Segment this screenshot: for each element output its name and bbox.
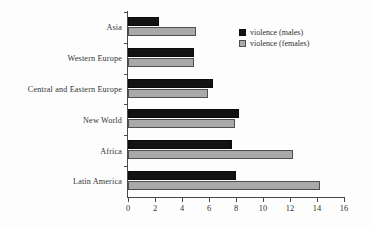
bar-new-world-females — [128, 119, 235, 128]
bar-africa-males — [128, 140, 232, 149]
legend-item-males: violence (males) — [239, 27, 309, 37]
bar-group-asia: Asia — [128, 12, 344, 43]
x-axis-label-16: 16 — [340, 204, 348, 213]
bar-group-latin-america: Latin America — [128, 166, 344, 197]
category-label-asia: Asia — [106, 23, 122, 32]
bar-group-africa: Africa — [128, 135, 344, 166]
y-axis-tick — [124, 43, 128, 44]
x-axis-tick — [182, 197, 183, 202]
bar-asia-females — [128, 27, 196, 36]
category-label-central-and-eastern-europe: Central and Eastern Europe — [28, 84, 122, 93]
x-axis-tick — [263, 197, 264, 202]
bar-western-europe-females — [128, 58, 194, 67]
bar-latin-america-females — [128, 181, 320, 190]
bar-chart: Asia Western Europe Central and Eastern … — [0, 0, 373, 227]
legend-item-females: violence (females) — [239, 38, 309, 48]
legend-label-females: violence (females) — [250, 39, 309, 48]
x-axis-tick — [344, 197, 345, 202]
plot-area: Asia Western Europe Central and Eastern … — [128, 12, 344, 197]
category-label-africa: Africa — [100, 146, 122, 155]
bar-central-and-eastern-europe-females — [128, 89, 208, 98]
x-axis-label-0: 0 — [126, 204, 130, 213]
x-axis-tick — [317, 197, 318, 202]
y-axis-tick — [124, 74, 128, 75]
category-label-western-europe: Western Europe — [68, 54, 122, 63]
y-axis-tick — [124, 135, 128, 136]
x-axis-tick — [209, 197, 210, 202]
bar-group-central-and-eastern-europe: Central and Eastern Europe — [128, 74, 344, 105]
x-axis-tick — [128, 197, 129, 202]
bar-western-europe-males — [128, 48, 194, 57]
legend-label-males: violence (males) — [250, 28, 303, 37]
x-axis-tick — [155, 197, 156, 202]
bar-new-world-males — [128, 109, 239, 118]
bar-central-and-eastern-europe-males — [128, 79, 213, 88]
x-axis-label-6: 6 — [207, 204, 211, 213]
x-axis-label-8: 8 — [234, 204, 238, 213]
chart-legend: violence (males) violence (females) — [239, 27, 309, 49]
bar-africa-females — [128, 150, 293, 159]
x-axis-label-2: 2 — [153, 204, 157, 213]
legend-swatch-icon-females — [239, 40, 246, 47]
category-label-new-world: New World — [83, 115, 122, 124]
y-axis-tick — [124, 104, 128, 105]
y-axis-tick — [124, 166, 128, 167]
x-axis-label-4: 4 — [180, 204, 184, 213]
x-axis-label-12: 12 — [286, 204, 294, 213]
x-axis-label-10: 10 — [259, 204, 267, 213]
x-axis-tick — [236, 197, 237, 202]
bar-group-western-europe: Western Europe — [128, 43, 344, 74]
x-axis-tick — [290, 197, 291, 202]
bar-latin-america-males — [128, 171, 236, 180]
category-label-latin-america: Latin America — [73, 177, 122, 186]
bar-group-new-world: New World — [128, 104, 344, 135]
y-axis-tick — [124, 12, 128, 13]
legend-swatch-icon-males — [239, 29, 246, 36]
bar-asia-males — [128, 17, 159, 26]
x-axis-label-14: 14 — [313, 204, 321, 213]
